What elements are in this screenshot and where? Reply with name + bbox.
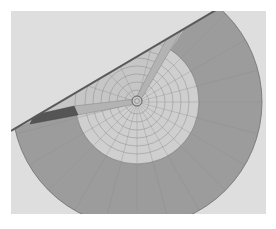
hub [132,96,142,106]
figure [0,0,276,229]
figure-caption [0,216,276,229]
model-body [11,0,262,227]
fe-model-drawing [0,0,276,229]
